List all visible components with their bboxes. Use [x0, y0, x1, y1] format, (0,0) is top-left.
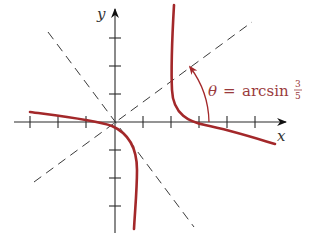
angle-arc-arrow [190, 67, 209, 122]
arcsin-text: arcsin [242, 82, 289, 100]
hyperbola-diagram: y x θ = arcsin 3 5 [0, 0, 311, 237]
x-axis-label: x [277, 127, 286, 145]
y-axis-label: y [96, 5, 106, 23]
equals-sign: = [223, 82, 236, 100]
asymptote-positive-slope [34, 22, 252, 182]
fraction-numerator: 3 [295, 79, 301, 89]
fraction-denominator: 5 [295, 91, 301, 101]
hyperbola-upper-branch [172, 5, 275, 144]
angle-annotation: θ = arcsin 3 5 [208, 79, 302, 101]
axes [14, 9, 286, 233]
theta-symbol: θ [208, 82, 217, 100]
